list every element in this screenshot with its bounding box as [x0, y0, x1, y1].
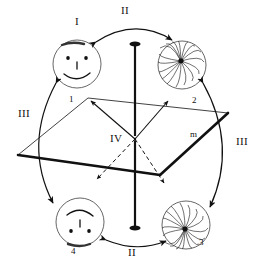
- arc-III-right: [203, 83, 222, 207]
- state-4-smiley-face-inverted: [56, 198, 104, 246]
- label-arc-II-bottom: II: [128, 247, 136, 258]
- label-arc-III-left: III: [18, 108, 30, 119]
- state-2-starburst: [158, 41, 206, 89]
- label-plane-m: m: [190, 130, 197, 139]
- label-arc-II-top: II: [121, 5, 129, 16]
- label-centre-IV: IV: [110, 133, 122, 144]
- label-arc-III-right: III: [236, 136, 248, 147]
- arc-II-top: [96, 29, 172, 42]
- label-state-4: 4: [71, 247, 76, 256]
- label-state-I: I: [75, 16, 79, 27]
- arc-III-left: [39, 83, 56, 203]
- label-state-3: 3: [199, 238, 204, 247]
- label-state-2: 2: [192, 96, 197, 105]
- state-1-smiley-face: [53, 40, 101, 88]
- diagram-svg: [0, 0, 270, 270]
- label-state-1: 1: [69, 95, 74, 104]
- arc-II-bottom: [106, 240, 166, 247]
- figure-canvas: II II III III I IV m 1 2 3 4: [0, 0, 270, 270]
